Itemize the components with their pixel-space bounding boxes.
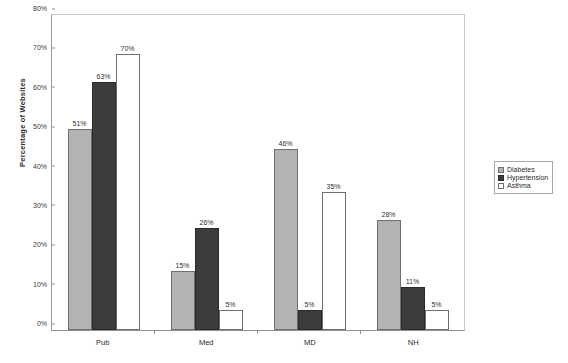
legend-label: Diabetes <box>507 166 535 173</box>
x-axis-category-label: NH <box>362 338 466 347</box>
legend-label: Asthma <box>507 182 531 189</box>
plot-area: 0%10%20%30%40%50%60%70%80% 51%63%70%15%2… <box>51 14 465 331</box>
bar-group: 15%26%5% <box>155 15 258 330</box>
x-axis-labels: PubMedMDNH <box>51 338 465 347</box>
bar-value-label: 5% <box>225 301 235 308</box>
bar-slot: 28% <box>377 15 401 330</box>
bar-diabetes-nh[interactable]: 28% <box>377 220 401 330</box>
bar-slot: 51% <box>68 15 92 330</box>
bar-value-label: 26% <box>199 219 213 226</box>
x-axis-tick-mark <box>360 330 361 334</box>
bar-value-label: 46% <box>278 140 292 147</box>
x-axis-tick-mark <box>257 330 258 334</box>
bar-slot: 26% <box>195 15 219 330</box>
y-axis-tick-mark <box>52 8 55 9</box>
legend-item-asthma: Asthma <box>498 182 548 189</box>
y-axis-tick-label: 20% <box>33 241 52 248</box>
bar-asthma-md[interactable]: 35% <box>322 192 346 330</box>
bar-asthma-med[interactable]: 5% <box>219 310 243 330</box>
bar-slot: 15% <box>171 15 195 330</box>
bar-value-label: 35% <box>326 183 340 190</box>
x-axis-tick-mark <box>154 330 155 334</box>
bar-slot: 5% <box>425 15 449 330</box>
bar-value-label: 51% <box>72 120 86 127</box>
x-axis-category-label: MD <box>258 338 362 347</box>
bar-group: 28%11%5% <box>361 15 464 330</box>
bar-slot: 5% <box>219 15 243 330</box>
bar-slot: 63% <box>92 15 116 330</box>
bar-hypertension-nh[interactable]: 11% <box>401 287 425 330</box>
bar-hypertension-med[interactable]: 26% <box>195 228 219 330</box>
bar-groups: 51%63%70%15%26%5%46%5%35%28%11%5% <box>52 15 464 330</box>
bar-slot: 11% <box>401 15 425 330</box>
bar-asthma-pub[interactable]: 70% <box>116 54 140 330</box>
x-axis-category-label: Med <box>155 338 259 347</box>
y-axis-title: Percentage of Websites <box>18 63 27 183</box>
bar-value-label: 28% <box>381 211 395 218</box>
bar-hypertension-pub[interactable]: 63% <box>92 82 116 330</box>
bar-group: 51%63%70% <box>52 15 155 330</box>
bar-slot: 5% <box>298 15 322 330</box>
y-axis-tick-label: 60% <box>33 83 52 90</box>
legend-item-diabetes: Diabetes <box>498 166 548 173</box>
bar-slot: 70% <box>116 15 140 330</box>
legend-item-hypertension: Hypertension <box>498 174 548 181</box>
y-axis-tick-label: 10% <box>33 280 52 287</box>
legend-swatch-icon <box>498 183 504 189</box>
bar-hypertension-md[interactable]: 5% <box>298 310 322 330</box>
y-axis-tick-label: 70% <box>33 44 52 51</box>
bar-chart: Percentage of Websites 0%10%20%30%40%50%… <box>0 0 568 363</box>
bar-group: 46%5%35% <box>258 15 361 330</box>
bar-asthma-nh[interactable]: 5% <box>425 310 449 330</box>
bar-diabetes-med[interactable]: 15% <box>171 271 195 330</box>
bar-slot: 35% <box>322 15 346 330</box>
legend-label: Hypertension <box>507 174 548 181</box>
bar-diabetes-pub[interactable]: 51% <box>68 129 92 330</box>
chart-legend: Diabetes Hypertension Asthma <box>494 161 553 194</box>
bar-value-label: 5% <box>304 301 314 308</box>
legend-swatch-icon <box>498 175 504 181</box>
y-axis-tick-label: 0% <box>37 320 52 327</box>
y-axis-tick-label: 50% <box>33 123 52 130</box>
bar-value-label: 63% <box>96 73 110 80</box>
bar-value-label: 70% <box>120 45 134 52</box>
y-axis-tick-label: 30% <box>33 201 52 208</box>
y-axis-tick-label: 80% <box>33 5 52 12</box>
y-axis-tick-label: 40% <box>33 162 52 169</box>
bar-diabetes-md[interactable]: 46% <box>274 149 298 330</box>
x-axis-category-label: Pub <box>51 338 155 347</box>
legend-swatch-icon <box>498 167 504 173</box>
bar-value-label: 15% <box>175 262 189 269</box>
bar-slot: 46% <box>274 15 298 330</box>
bar-value-label: 11% <box>406 278 420 285</box>
bar-value-label: 5% <box>431 301 441 308</box>
